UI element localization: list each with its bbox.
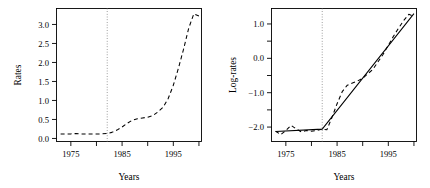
y-tick-label: 1.5: [38, 77, 49, 87]
x-tick-label: 1975: [62, 149, 79, 159]
y-tick-label: 1.0: [38, 96, 49, 106]
rates-chart-svg: 1975198519950.00.51.01.52.02.53.0YearsRa…: [0, 0, 215, 188]
y-tick-label: −1.0: [248, 88, 264, 98]
series-segmented-fit: [276, 14, 414, 132]
x-tick-label: 1985: [113, 149, 130, 159]
y-tick-label: 3.0: [38, 20, 49, 30]
y-tick-label: 0.0: [253, 53, 264, 63]
x-axis-title: Years: [334, 172, 355, 182]
y-tick-label: 0.5: [38, 115, 49, 125]
y-axis-title: Log-rates: [228, 57, 238, 93]
log-rates-chart-svg: 197519851995−2.0−1.00.01.0YearsLog-rates: [215, 0, 430, 188]
x-tick-label: 1995: [165, 149, 182, 159]
plot-frame: [272, 9, 417, 142]
y-tick-label: 0.0: [38, 134, 49, 144]
figure-two-panel-plot: 1975198519950.00.51.01.52.02.53.0YearsRa…: [0, 0, 430, 188]
y-axis-title: Rates: [13, 64, 23, 85]
panel-log-rates: 197519851995−2.0−1.00.01.0YearsLog-rates: [215, 0, 430, 188]
y-tick-label: 2.0: [38, 58, 49, 68]
y-tick-label: 2.5: [38, 39, 49, 49]
plot-frame: [57, 9, 202, 142]
series-observed-log-rates: [276, 14, 414, 134]
x-axis-title: Years: [119, 172, 140, 182]
panel-rates: 1975198519950.00.51.01.52.02.53.0YearsRa…: [0, 0, 215, 188]
y-tick-label: 1.0: [253, 19, 264, 29]
series-observed-rates: [61, 14, 199, 134]
x-tick-label: 1995: [380, 149, 397, 159]
y-tick-label: −2.0: [248, 122, 264, 132]
x-tick-label: 1975: [277, 149, 294, 159]
x-tick-label: 1985: [328, 149, 345, 159]
